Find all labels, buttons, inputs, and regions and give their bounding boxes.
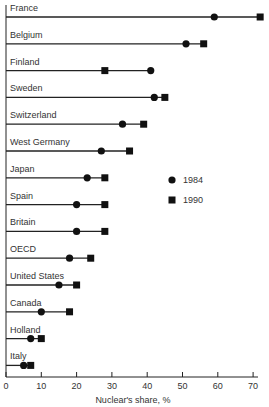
x-tick-label: 30 [107,381,117,391]
chart-row: Belgium [6,30,207,48]
chart-row: Finland [6,57,154,75]
category-label: Finland [10,57,40,67]
x-tick-label: 20 [72,381,82,391]
legend-square-icon [169,197,176,204]
category-label: Switzerland [10,110,57,120]
marker-1984 [27,335,34,342]
category-label: Sweden [10,83,43,93]
chart-row: Sweden [6,83,168,101]
x-tick-label: 50 [177,381,187,391]
marker-1990 [73,282,80,289]
marker-1984 [182,40,189,47]
chart-rows: FranceBelgiumFinlandSwedenSwitzerlandWes… [6,3,264,369]
category-label: Canada [10,298,42,308]
chart-row: Spain [6,191,108,209]
marker-1984 [66,255,73,262]
chart-row: Canada [6,298,73,316]
category-label: Holland [10,325,41,335]
marker-1990 [101,201,108,208]
marker-1990 [38,335,45,342]
category-label: Spain [10,191,33,201]
marker-1990 [87,255,94,262]
marker-1990 [101,228,108,235]
marker-1990 [27,362,34,369]
marker-1984 [20,362,27,369]
legend-label-1990: 1990 [183,195,203,205]
marker-1990 [200,40,207,47]
marker-1984 [38,308,45,315]
chart-row: OECD [6,244,94,262]
chart-row: West Germany [6,137,133,155]
x-axis-label: Nuclear's share, % [95,395,170,405]
marker-1984 [211,13,218,20]
marker-1984 [147,67,154,74]
marker-1990 [126,148,133,155]
category-label: Belgium [10,30,43,40]
chart-row: Holland [6,325,45,343]
marker-1984 [84,174,91,181]
x-tick-label: 70 [248,381,258,391]
category-label: France [10,3,38,13]
marker-1984 [98,147,105,154]
chart-row: France [6,3,264,21]
marker-1984 [73,201,80,208]
marker-1990 [101,67,108,74]
category-label: United States [10,271,65,281]
chart-row: Britain [6,217,108,235]
marker-1990 [101,174,108,181]
chart-row: Italy [6,351,34,369]
x-axis-ticks: 010203040506070 [3,372,258,391]
category-label: West Germany [10,137,70,147]
category-label: Italy [10,351,27,361]
x-tick-label: 40 [142,381,152,391]
chart-row: Switzerland [6,110,147,128]
x-tick-label: 10 [36,381,46,391]
chart-row: United States [6,271,80,289]
category-label: Britain [10,217,36,227]
marker-1990 [140,121,147,128]
legend-circle-icon [168,176,175,183]
marker-1984 [151,94,158,101]
x-tick-label: 60 [213,381,223,391]
marker-1990 [161,94,168,101]
marker-1984 [119,121,126,128]
marker-1990 [66,308,73,315]
marker-1984 [55,281,62,288]
legend: 19841990 [168,175,203,205]
category-label: Japan [10,164,35,174]
chart-row: Japan [6,164,108,182]
category-label: OECD [10,244,37,254]
legend-label-1984: 1984 [183,175,203,185]
nuclear-share-chart: FranceBelgiumFinlandSwedenSwitzerlandWes… [0,0,269,407]
marker-1984 [73,228,80,235]
x-tick-label: 0 [3,381,8,391]
marker-1990 [257,14,264,21]
